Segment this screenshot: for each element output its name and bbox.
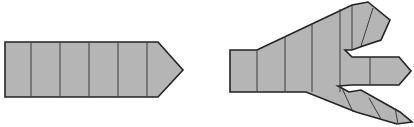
geometry-figure-svg [0,0,414,127]
figure-canvas [0,0,414,127]
shape-branching-three-prong-arrow [230,2,412,124]
straight-arrow-outline [5,42,183,97]
shape-straight-segmented-arrow [5,42,183,97]
